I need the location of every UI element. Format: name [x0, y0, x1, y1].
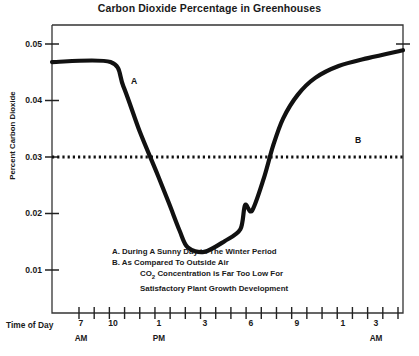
- series-line-a: [52, 50, 403, 252]
- chart-plot-svg: [0, 0, 419, 356]
- plot-frame: [52, 25, 403, 313]
- chart-container: Carbon Dioxide Percentage in Greenhouses…: [0, 0, 419, 356]
